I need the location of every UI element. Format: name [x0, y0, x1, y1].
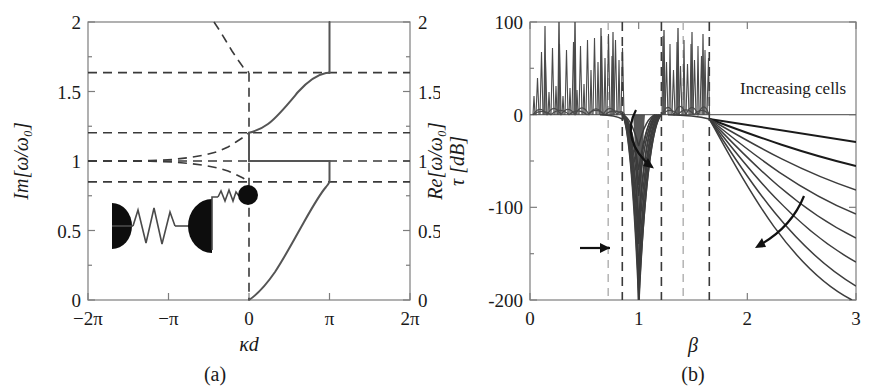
figure-container: 0 0.5 1 1.5 2 0 0.5 1 1.5 2 −2π −π 0 π 2…	[0, 0, 881, 392]
panel-caption-a: (a)	[204, 363, 226, 386]
inset-spring-main	[133, 208, 175, 244]
inset-spring-resonator	[218, 190, 239, 201]
xtick-a-neg2pi: −2π	[73, 308, 103, 329]
ytick-a-left-2: 2	[72, 12, 82, 33]
y-axis-ticks-b	[530, 22, 856, 300]
xaxis-label-a: κd	[239, 333, 260, 355]
arrow-curved-stopband-2	[755, 196, 804, 248]
optical-branch-a	[249, 73, 330, 133]
passband-2-ripples	[662, 28, 710, 115]
xtick-b-1: 1	[634, 308, 644, 329]
ytick-b-neg100: -100	[488, 197, 523, 218]
xaxis-label-b: β	[687, 334, 698, 357]
panel-caption-b: (b)	[681, 363, 704, 386]
xtick-b-0: 0	[525, 308, 535, 329]
increasing-cells-label: Increasing cells	[740, 79, 846, 98]
xtick-a-zero: 0	[244, 308, 254, 329]
x-axis-ticks-b	[530, 22, 856, 300]
passband-1-ripples	[533, 22, 625, 115]
inset-resonator-schematic	[112, 185, 258, 253]
ytick-a-left-1: 1	[72, 151, 82, 172]
arrow-lower-left	[580, 243, 610, 253]
panel-a-svg: 0 0.5 1 1.5 2 0 0.5 1 1.5 2 −2π −π 0 π 2…	[0, 0, 440, 392]
ytick-a-left-0p5: 0.5	[57, 221, 81, 242]
ytick-a-left-1p5: 1.5	[57, 82, 81, 103]
panel-b: -200 -100 0 100 0 1 2 3 β	[440, 0, 881, 392]
inset-half-disk-right	[188, 199, 212, 253]
imaginary-branch-high	[214, 22, 249, 73]
xtick-a-2pi: 2π	[400, 308, 420, 329]
ytick-b-zero: 0	[514, 105, 524, 126]
inset-riser	[212, 197, 218, 250]
acoustic-branch-a	[249, 182, 330, 300]
inset-resonator-mass	[238, 185, 258, 205]
xtick-b-3: 3	[851, 308, 861, 329]
panel-a: 0 0.5 1 1.5 2 0 0.5 1 1.5 2 −2π −π 0 π 2…	[0, 0, 440, 392]
yaxis-label-a-left: Im[ω/ω₀]	[10, 122, 32, 200]
panel-b-svg: -200 -100 0 100 0 1 2 3 β	[440, 0, 881, 392]
stopband-1-traces	[622, 115, 661, 300]
imaginary-branch-upper	[88, 161, 249, 182]
imaginary-branch-lower	[88, 133, 249, 161]
xtick-a-pi: π	[325, 308, 335, 329]
xtick-a-negpi: −π	[158, 308, 179, 329]
xtick-b-2: 2	[743, 308, 753, 329]
plot-frame-b	[530, 22, 856, 300]
ytick-b-neg200: -200	[488, 290, 523, 311]
ytick-b-100: 100	[495, 12, 524, 33]
